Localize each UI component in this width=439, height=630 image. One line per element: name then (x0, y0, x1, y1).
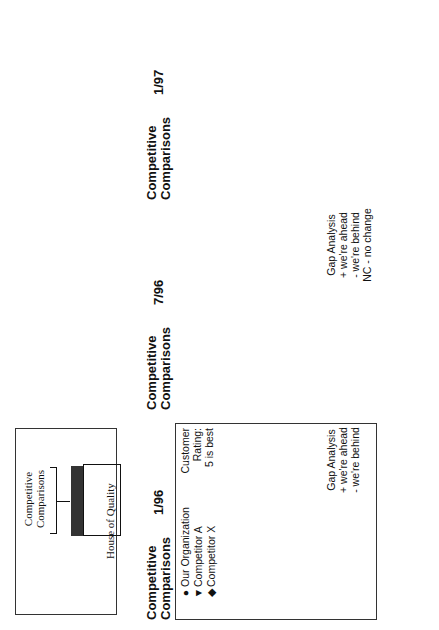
diamond-icon: ◆ (205, 587, 218, 599)
gap-analysis-header: Gap Analysis + we're ahead - we're behin… (325, 200, 373, 290)
panel-1-97: Competitive Comparisons 1/97 (145, 0, 435, 200)
circle-icon: ● (179, 587, 192, 599)
inset-caption: House of Quality (104, 483, 116, 559)
legend: ●Our Organization ▼Competitor A ◆Competi… (179, 507, 218, 599)
legend-item-our-org: ●Our Organization (179, 507, 192, 599)
inset-arrow (56, 501, 70, 502)
house-of-quality-inset: Competitive Comparisons House of Quality (15, 428, 117, 615)
panel-7-96: Competitive Comparisons 7/96 Gap Analysi… (145, 200, 435, 410)
gap-analysis-header: Gap Analysis + we're ahead - we're behin… (325, 420, 361, 500)
panel-title: Competitive Comparisons (145, 320, 173, 410)
rating-label: Customer Rating:5 is best (179, 428, 215, 498)
house-roof-icon (71, 466, 83, 536)
legend-item-competitor-a: ▼Competitor A (192, 507, 205, 599)
diagram-canvas: Competitive Comparisons House of Quality… (0, 0, 439, 630)
panel-date: 7/96 (151, 280, 166, 305)
legend-item-competitor-x: ◆Competitor X (205, 507, 218, 599)
triangle-icon: ▼ (192, 587, 205, 599)
inset-label: Competitive Comparisons (22, 469, 46, 529)
panel-date: 1/97 (151, 70, 166, 95)
panel-1-96: Competitive Comparisons 1/96 ●Our Organi… (145, 410, 435, 620)
panel-title: Competitive Comparisons (145, 110, 173, 200)
panel-title: Competitive Comparisons (145, 530, 173, 620)
panel-date: 1/96 (151, 490, 166, 515)
